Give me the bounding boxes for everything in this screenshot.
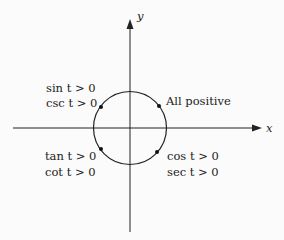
diagram-graphics [0,0,284,240]
q2-line-1: sin t > 0 [46,80,96,96]
q1-line-1: All positive [166,93,231,109]
x-axis-label: x [266,120,273,136]
point-q2 [99,105,103,109]
q4-line-1: cos t > 0 [167,148,219,164]
y-axis-label: y [137,8,144,24]
q4-line-2: sec t > 0 [167,164,219,180]
unit-circle-diagram: y x sin t > 0 csc t > 0 All positive tan… [0,0,284,240]
point-q3 [99,147,103,151]
q3-line-2: cot t > 0 [45,164,96,180]
q3-line-1: tan t > 0 [45,148,96,164]
y-axis-arrow-icon [127,19,134,29]
point-q4 [155,150,159,154]
q2-line-2: csc t > 0 [46,95,97,111]
x-axis-arrow-icon [252,125,262,132]
point-q1 [157,104,161,108]
